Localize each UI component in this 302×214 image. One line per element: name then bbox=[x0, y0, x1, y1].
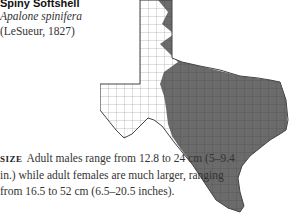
species-scientific-name: Apalone spinifera bbox=[0, 10, 82, 22]
species-common-name: Spiny Softshell bbox=[0, 0, 79, 9]
species-authority: (LeSueur, 1827) bbox=[0, 25, 75, 37]
size-label: SIZE bbox=[0, 154, 23, 164]
size-description: SIZEAdult males range from 12.8 to 24 cm… bbox=[0, 150, 240, 199]
size-text: Adult males range from 12.8 to 24 cm (5–… bbox=[0, 152, 235, 197]
